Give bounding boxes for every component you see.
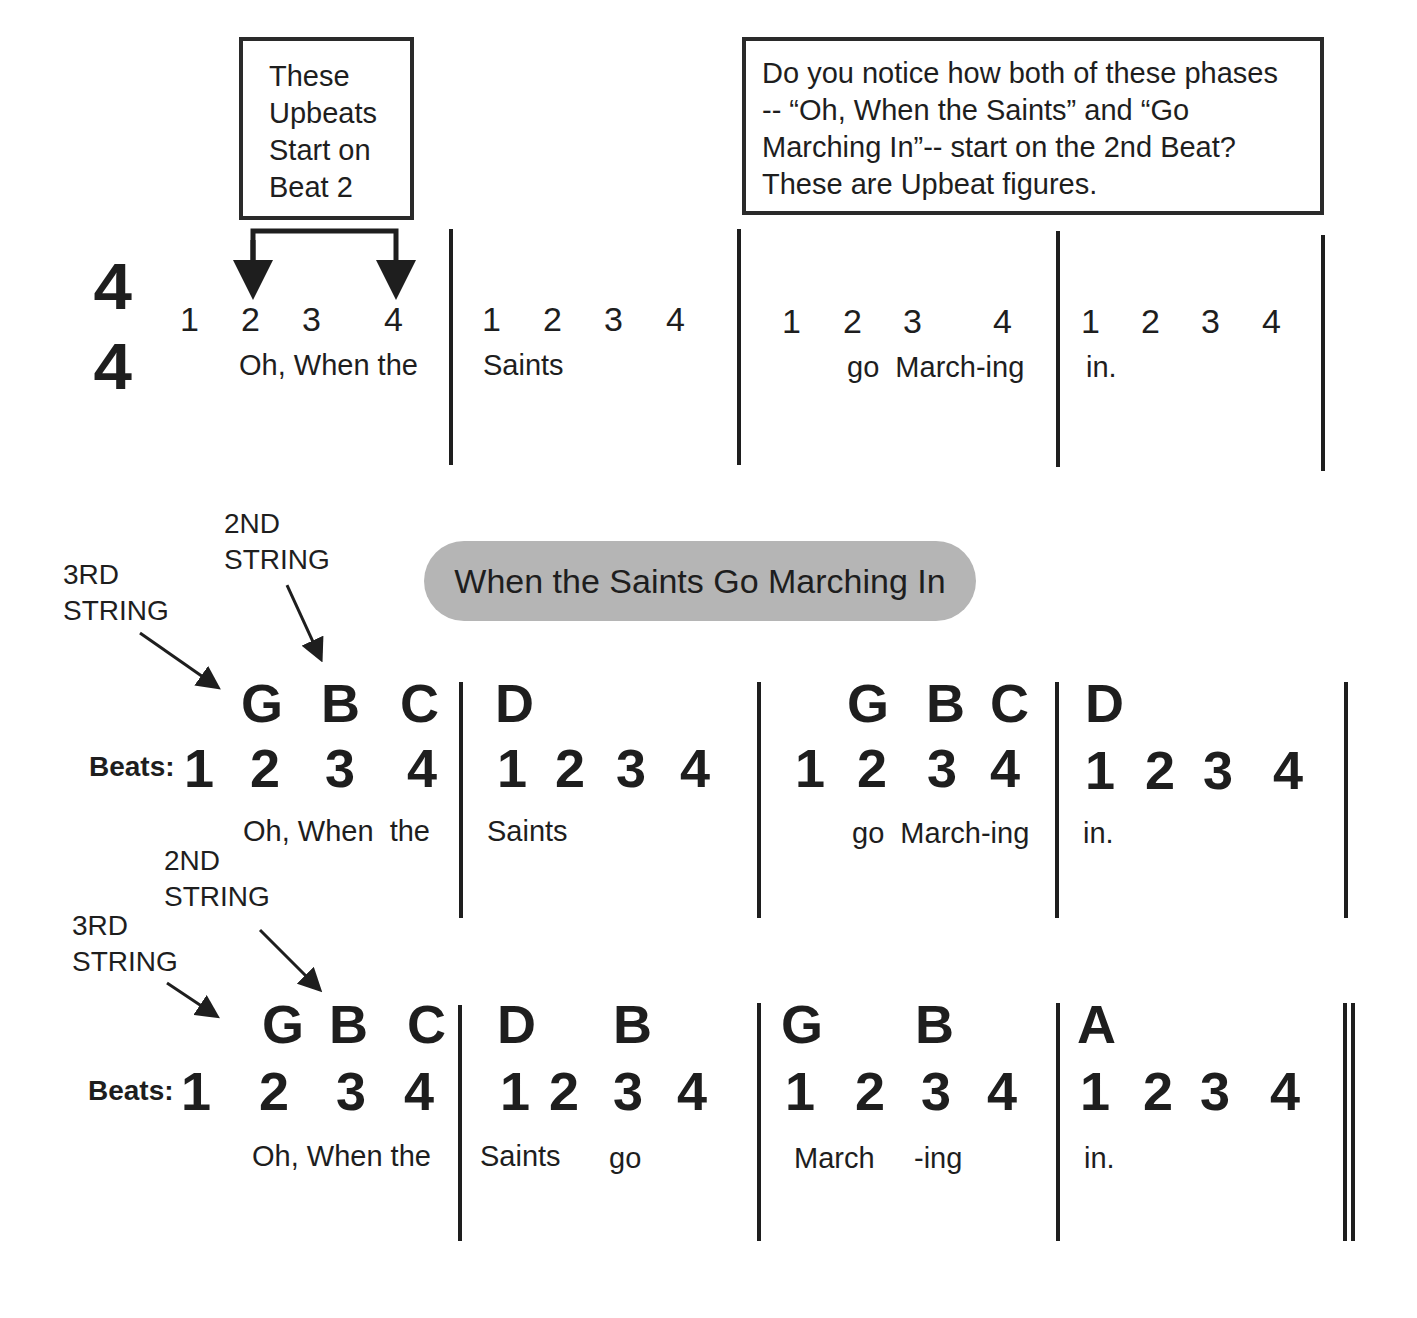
note: B	[321, 676, 360, 730]
note: B	[926, 676, 965, 730]
bar-line	[757, 682, 761, 918]
third-string-label: 3RD STRING	[72, 908, 178, 980]
final-bar-line	[1343, 1003, 1347, 1241]
beat-number: 2	[241, 302, 260, 336]
beat-number: 4	[987, 1064, 1017, 1118]
note: A	[1077, 997, 1116, 1051]
bar-line	[1055, 682, 1059, 918]
lyric: in.	[1083, 817, 1114, 849]
note: D	[497, 997, 536, 1051]
bar-line	[1344, 682, 1348, 918]
lyric: in.	[1084, 1142, 1115, 1174]
beats-label: Beats:	[88, 1076, 174, 1106]
time-signature-top: 4	[94, 255, 132, 319]
second-string-label: 2ND STRING	[224, 506, 330, 578]
lyric: go	[609, 1142, 641, 1174]
beat-number: 3	[336, 1064, 366, 1118]
beat-number: 3	[1201, 304, 1220, 338]
beat-number: 1	[795, 741, 825, 795]
beat-number: 1	[497, 741, 527, 795]
bar-line	[458, 1005, 462, 1241]
lyric: Saints	[487, 815, 568, 847]
beat-number: 4	[993, 304, 1012, 338]
note: C	[400, 676, 439, 730]
beat-number: 2	[555, 741, 585, 795]
lyric: March	[794, 1142, 875, 1174]
note: G	[262, 997, 304, 1051]
lyric: Saints	[480, 1140, 561, 1172]
lyric: Oh, When the	[252, 1140, 431, 1172]
second-string-label: 2ND STRING	[164, 843, 270, 915]
beat-number: 3	[302, 302, 321, 336]
beat-number: 2	[549, 1064, 579, 1118]
beat-number: 4	[1273, 743, 1303, 797]
note: B	[329, 997, 368, 1051]
beat-number: 1	[785, 1064, 815, 1118]
beat-number: 3	[604, 302, 623, 336]
beat-number: 1	[782, 304, 801, 338]
beat-number: 2	[843, 304, 862, 338]
beat-number: 1	[500, 1064, 530, 1118]
note: G	[781, 997, 823, 1051]
beat-number: 3	[325, 741, 355, 795]
beat-number: 4	[680, 741, 710, 795]
beat-number: 1	[1080, 1064, 1110, 1118]
lyric: Oh, When the	[239, 349, 418, 381]
beat-number: 3	[1200, 1064, 1230, 1118]
bar-line	[459, 682, 463, 918]
lyric: Oh, When the	[243, 815, 430, 847]
lyric: go March-ing	[852, 817, 1029, 849]
beat-number: 1	[482, 302, 501, 336]
beats-label: Beats:	[89, 752, 175, 782]
beat-number: 4	[666, 302, 685, 336]
beat-number: 3	[613, 1064, 643, 1118]
bar-line	[449, 229, 453, 465]
lyric: go March-ing	[847, 351, 1024, 383]
beat-number: 1	[1081, 304, 1100, 338]
time-signature-bottom: 4	[94, 335, 132, 399]
lyric: -ing	[914, 1142, 962, 1174]
beat-number: 1	[180, 302, 199, 336]
note: B	[613, 997, 652, 1051]
beat-number: 4	[404, 1064, 434, 1118]
lyric: in.	[1086, 351, 1117, 383]
third-string-label: 3RD STRING	[63, 557, 169, 629]
lyric: Saints	[483, 349, 564, 381]
beat-number: 3	[927, 741, 957, 795]
beat-number: 1	[181, 1064, 211, 1118]
bar-line	[1321, 235, 1325, 471]
beat-number: 2	[1145, 743, 1175, 797]
beat-number: 3	[1203, 743, 1233, 797]
beat-number: 2	[1143, 1064, 1173, 1118]
beat-number: 1	[184, 741, 214, 795]
note: B	[915, 997, 954, 1051]
beat-number: 4	[407, 741, 437, 795]
note: G	[847, 676, 889, 730]
beat-number: 2	[543, 302, 562, 336]
beat-number: 2	[857, 741, 887, 795]
beat-number: 2	[250, 741, 280, 795]
note: C	[990, 676, 1029, 730]
note: D	[1085, 676, 1124, 730]
note: C	[407, 997, 446, 1051]
bar-line	[757, 1003, 761, 1241]
beat-number: 3	[903, 304, 922, 338]
note: G	[241, 676, 283, 730]
bar-line	[1056, 231, 1060, 467]
final-bar-line	[1351, 1003, 1355, 1241]
bar-line	[1056, 1003, 1060, 1241]
beat-number: 4	[677, 1064, 707, 1118]
beat-number: 2	[855, 1064, 885, 1118]
beat-number: 1	[1085, 743, 1115, 797]
beat-number: 2	[1141, 304, 1160, 338]
bar-line	[737, 229, 741, 465]
beat-number: 4	[1270, 1064, 1300, 1118]
note: D	[495, 676, 534, 730]
song-title: When the Saints Go Marching In	[424, 541, 976, 621]
beat-number: 4	[990, 741, 1020, 795]
beat-number: 2	[259, 1064, 289, 1118]
beat-number: 3	[616, 741, 646, 795]
beat-number: 4	[384, 302, 403, 336]
beat-number: 4	[1262, 304, 1281, 338]
beat-number: 3	[921, 1064, 951, 1118]
